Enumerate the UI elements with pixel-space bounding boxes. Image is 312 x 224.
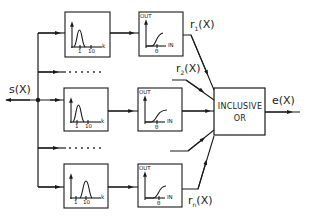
filter1-axis-k: k (102, 43, 105, 49)
input-signal-label: s(X) (9, 84, 31, 95)
filter1-tick-1: 1 (78, 49, 82, 55)
r2-label: r2(X) (176, 63, 200, 76)
threshold1-theta: θ (155, 49, 158, 55)
threshold1-out-label: OUT (140, 14, 152, 20)
thresholdn-theta: θ (157, 201, 160, 207)
filtermid-axis-k: k (101, 118, 104, 124)
filtern-axis-k: k (101, 194, 104, 200)
threshold1-in-label: IN (168, 43, 174, 49)
thresholdmid-in-label: IN (167, 119, 173, 125)
r1-label: r1(X) (190, 19, 214, 32)
diagram-canvas (0, 0, 312, 224)
inclusive-or-box (214, 88, 265, 135)
filtermid-tick-10: 10 (85, 124, 92, 130)
rn-label: rn(X) (188, 195, 212, 208)
thresholdmid-out-label: OUT (139, 90, 151, 96)
output-signal-label: e(X) (272, 95, 295, 106)
or-label-line1: INCLUSIVE (215, 103, 265, 111)
thresholdn-out-label: OUT (139, 166, 151, 172)
or-label-line2: OR (215, 115, 265, 123)
r2-line (172, 80, 214, 100)
filtern-tick-1: 1 (74, 200, 78, 206)
filter1-tick-10: 10 (88, 49, 95, 55)
thresholdmid-theta: θ (155, 125, 158, 131)
thresholdn-in-label: IN (167, 195, 173, 201)
filtermid-tick-1: 1 (75, 124, 79, 130)
filtern-tick-10: 10 (83, 200, 90, 206)
rn-line (182, 136, 214, 189)
